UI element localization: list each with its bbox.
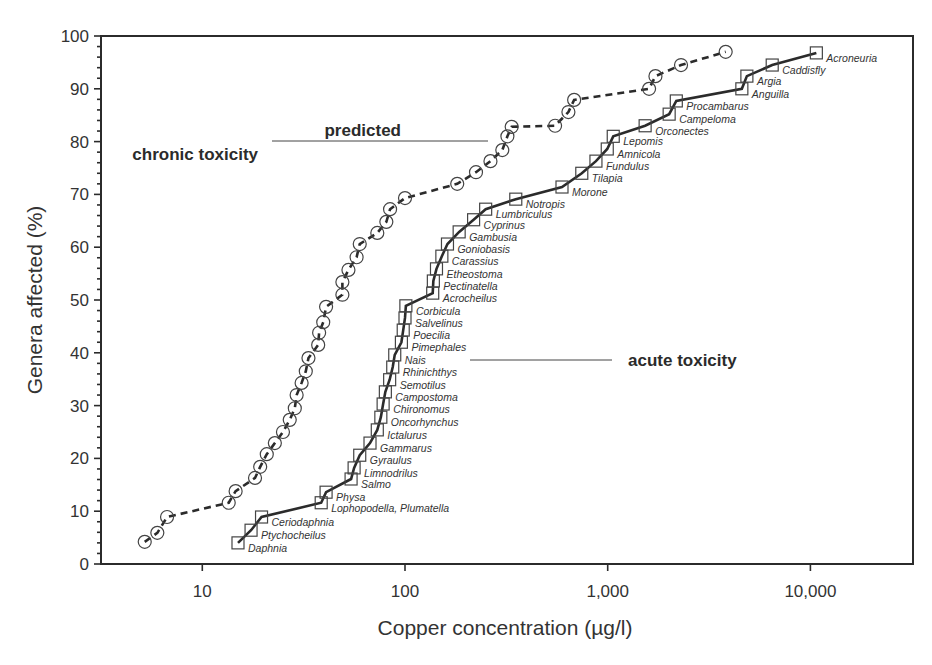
genus-label: Cyprinus bbox=[484, 219, 526, 231]
genus-label: Lepomis bbox=[623, 135, 663, 147]
genus-label: Chironomus bbox=[393, 403, 450, 415]
genus-label: Gambusia bbox=[469, 231, 517, 243]
y-tick-label: 30 bbox=[70, 397, 89, 416]
genus-label: Morone bbox=[572, 186, 608, 198]
genus-label: Carassius bbox=[452, 255, 499, 267]
genus-label: Anguilla bbox=[751, 88, 790, 100]
genus-label: Caddisfly bbox=[782, 64, 826, 76]
y-tick-label: 20 bbox=[70, 449, 89, 468]
chronic-toxicity-series bbox=[138, 45, 732, 548]
genus-label: Pectinatella bbox=[443, 280, 497, 292]
x-axis: 101001,00010,000 bbox=[193, 564, 837, 601]
x-tick-label: 1,000 bbox=[586, 582, 629, 601]
chronic-label-line1: predicted bbox=[324, 121, 401, 140]
x-tick-label: 100 bbox=[391, 582, 419, 601]
genus-label: Gammarus bbox=[380, 442, 433, 454]
genus-label: Gyraulus bbox=[370, 454, 413, 466]
circle-marker-icon bbox=[484, 155, 497, 168]
genus-label: Goniobasis bbox=[457, 243, 510, 255]
circle-marker-icon bbox=[276, 426, 289, 439]
genus-label: Acroneuria bbox=[825, 52, 877, 64]
genus-label: Pimephales bbox=[411, 341, 467, 353]
circle-marker-icon bbox=[371, 226, 384, 239]
y-tick-label: 40 bbox=[70, 344, 89, 363]
circle-marker-icon bbox=[649, 70, 662, 83]
genus-label: Argia bbox=[756, 75, 782, 87]
x-axis-title: Copper concentration (µg/l) bbox=[378, 616, 633, 639]
genus-label: Ptychocheilus bbox=[261, 529, 327, 541]
genus-label: Salmo bbox=[361, 478, 391, 490]
y-tick-label: 80 bbox=[70, 133, 89, 152]
plot-frame bbox=[101, 36, 913, 564]
genus-label: Acrocheilus bbox=[442, 292, 498, 304]
acute-label: acute toxicity bbox=[628, 351, 737, 370]
genus-label: Procambarus bbox=[686, 100, 749, 112]
genus-label: Rhinichthys bbox=[403, 366, 458, 378]
genus-label: Orconectes bbox=[655, 125, 709, 137]
genus-label: Corbicula bbox=[416, 305, 461, 317]
chronic-label-line2: chronic toxicity bbox=[132, 145, 258, 164]
y-tick-label: 70 bbox=[70, 185, 89, 204]
genus-label: Lophopodella, Plumatella bbox=[331, 502, 449, 514]
genus-label: Poecilia bbox=[413, 329, 450, 341]
genus-label: Ceriodaphnia bbox=[272, 516, 335, 528]
circle-marker-icon bbox=[342, 263, 355, 276]
genus-label: Limnodrilus bbox=[364, 467, 418, 479]
y-tick-label: 10 bbox=[70, 502, 89, 521]
y-axis: 0102030405060708090100 bbox=[61, 27, 101, 574]
x-tick-label: 10,000 bbox=[784, 582, 836, 601]
genus-label: Etheostoma bbox=[446, 268, 502, 280]
genus-label: Campeloma bbox=[679, 113, 736, 125]
y-tick-label: 50 bbox=[70, 291, 89, 310]
y-tick-label: 100 bbox=[61, 27, 89, 46]
genus-label: Salvelinus bbox=[415, 317, 464, 329]
plot-border bbox=[101, 36, 913, 564]
x-tick-label: 10 bbox=[193, 582, 212, 601]
genus-label: Tilapia bbox=[592, 172, 623, 184]
circle-marker-icon bbox=[496, 144, 509, 157]
genus-label: Daphnia bbox=[248, 542, 287, 554]
y-axis-title: Genera affected (%) bbox=[23, 206, 46, 395]
genus-label: Notropis bbox=[526, 198, 566, 210]
y-tick-label: 60 bbox=[70, 238, 89, 257]
genus-label: Campostoma bbox=[395, 391, 458, 403]
genus-label: Semotilus bbox=[400, 379, 447, 391]
genus-label: Physa bbox=[336, 491, 365, 503]
genus-label: Oncorhynchus bbox=[391, 416, 459, 428]
y-tick-label: 90 bbox=[70, 80, 89, 99]
species-sensitivity-chart: 0102030405060708090100 101001,00010,000 … bbox=[0, 0, 932, 665]
genus-label: Nais bbox=[405, 354, 427, 366]
genus-label: Amnicola bbox=[616, 148, 660, 160]
genus-label: Fundulus bbox=[606, 160, 650, 172]
circle-marker-icon bbox=[317, 316, 330, 329]
genus-label: Ictalurus bbox=[387, 429, 427, 441]
y-tick-label: 0 bbox=[80, 555, 89, 574]
